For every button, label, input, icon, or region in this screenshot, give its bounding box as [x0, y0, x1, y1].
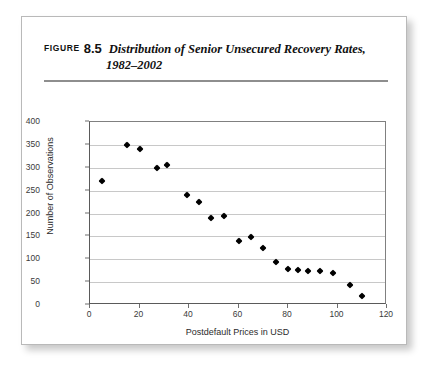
x-axis-tick-mark: [337, 304, 338, 308]
data-point: [284, 265, 291, 272]
x-axis-tick-mark: [89, 304, 90, 308]
gridline: [90, 168, 385, 169]
x-axis-tick-label: 60: [233, 309, 242, 319]
data-point: [183, 192, 190, 199]
data-point: [247, 233, 254, 240]
data-point: [294, 266, 301, 273]
data-point: [260, 244, 267, 251]
x-axis-tick-mark: [238, 304, 239, 308]
gridline: [90, 145, 385, 146]
figure-label: FIGURE: [44, 43, 80, 53]
data-point: [304, 267, 311, 274]
data-point: [208, 215, 215, 222]
y-axis-tick-label: 100: [6, 253, 40, 263]
scatter-chart: Number of Observations Postdefault Price…: [22, 97, 408, 345]
gridline: [90, 259, 385, 260]
x-axis-tick-label: 0: [87, 309, 92, 319]
data-point: [124, 142, 131, 149]
y-axis-tick-label: 400: [6, 116, 40, 126]
caption-divider: [44, 80, 388, 82]
y-axis-tick-label: 300: [6, 162, 40, 172]
figure-number: 8.5: [84, 41, 102, 56]
gridline: [90, 191, 385, 192]
y-axis-tick-label: 0: [6, 299, 40, 309]
data-point: [359, 293, 366, 300]
gridline: [90, 214, 385, 215]
x-axis-tick-mark: [287, 304, 288, 308]
data-point: [153, 164, 160, 171]
x-axis-tick-label: 40: [183, 309, 192, 319]
data-point: [136, 146, 143, 153]
x-axis-tick-mark: [188, 304, 189, 308]
x-axis-tick-label: 100: [329, 309, 343, 319]
x-axis-title: Postdefault Prices in USD: [89, 327, 386, 337]
x-axis-tick-label: 120: [379, 309, 393, 319]
figure-card: FIGURE8.5Distribution of Senior Unsecure…: [21, 16, 407, 345]
data-point: [99, 177, 106, 184]
y-axis-title: Number of Observations: [45, 111, 55, 261]
y-axis-tick-label: 150: [6, 230, 40, 240]
y-axis-tick-label: 200: [6, 208, 40, 218]
data-point: [235, 238, 242, 245]
figure-title-line-1: Distribution of Senior Unsecured Recover…: [109, 42, 366, 56]
x-axis-tick-mark: [386, 304, 387, 308]
data-point: [317, 268, 324, 275]
figure-caption-line-1: FIGURE8.5Distribution of Senior Unsecure…: [44, 39, 388, 57]
y-axis-tick-label: 50: [6, 276, 40, 286]
gridline: [90, 282, 385, 283]
data-point: [195, 199, 202, 206]
plot-area: [89, 121, 386, 304]
data-point: [329, 270, 336, 277]
y-axis-tick-label: 250: [6, 185, 40, 195]
x-axis-tick-label: 80: [282, 309, 291, 319]
figure-title-line-2: 1982–2002: [106, 58, 388, 73]
figure-caption: FIGURE8.5Distribution of Senior Unsecure…: [44, 39, 388, 73]
x-axis-tick-mark: [139, 304, 140, 308]
x-axis-tick-label: 20: [134, 309, 143, 319]
y-axis-tick-label: 350: [6, 139, 40, 149]
